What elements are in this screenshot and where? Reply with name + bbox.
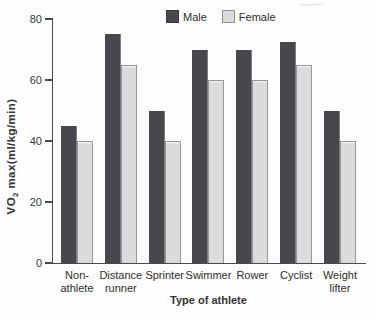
y-tick-label: 0	[17, 256, 42, 270]
male-bar	[324, 111, 340, 264]
female-bar	[77, 141, 93, 263]
bar-group: Rower	[236, 19, 268, 263]
bar-group: Weight lifter	[324, 19, 356, 263]
y-tick-mark	[45, 18, 53, 20]
y-tick-mark	[45, 79, 53, 81]
bar-group: Distance runner	[105, 19, 137, 263]
male-bar	[192, 50, 208, 264]
female-bar	[208, 80, 224, 263]
y-axis-title-pre: VO	[5, 197, 17, 214]
vo2max-bar-chart-figure: Male Female VO2 max(ml/kg/min) 020406080…	[0, 0, 377, 320]
y-tick-label: 40	[17, 134, 42, 148]
bar-groups: Non- athleteDistance runnerSprinterSwimm…	[53, 19, 366, 263]
bar-group: Sprinter	[149, 19, 181, 263]
plot-area: 020406080 Non- athleteDistance runnerSpr…	[52, 19, 366, 264]
female-bar	[296, 65, 312, 263]
x-category-label: Weight lifter	[309, 269, 371, 295]
x-axis-title: Type of athlete	[52, 294, 365, 306]
bar-group: Swimmer	[192, 19, 224, 263]
female-bar	[121, 65, 137, 263]
y-tick-label: 80	[17, 12, 42, 26]
female-bar	[252, 80, 268, 263]
y-tick-mark	[45, 201, 53, 203]
female-bar	[165, 141, 181, 263]
female-bar	[340, 141, 356, 263]
bar-group: Non- athlete	[61, 19, 93, 263]
y-tick-mark	[45, 262, 53, 264]
y-tick-mark	[45, 140, 53, 142]
male-bar	[105, 34, 121, 263]
scan-artifact	[298, 0, 324, 6]
male-bar	[280, 42, 296, 263]
bar-group: Cyclist	[280, 19, 312, 263]
y-tick-label: 60	[17, 73, 42, 87]
y-axis-title: VO2 max(ml/kg/min)	[5, 74, 20, 239]
male-bar	[61, 126, 77, 263]
male-bar	[149, 111, 165, 264]
y-tick-label: 20	[17, 195, 42, 209]
y-axis-title-post: max(ml/kg/min)	[5, 99, 17, 193]
male-bar	[236, 50, 252, 264]
